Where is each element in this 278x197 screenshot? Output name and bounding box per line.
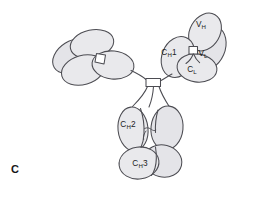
domain-ch2-left-shape <box>116 106 150 153</box>
fc-stem-right-line <box>159 87 170 108</box>
panel-letter-label: C <box>11 163 19 175</box>
left-arm-interchain-bond <box>95 54 106 65</box>
hinge-disulfide-bond <box>146 79 161 87</box>
domain-ch2-right-shape <box>149 104 185 151</box>
hinge-connector-left <box>131 71 146 80</box>
right-arm-vh-vl-bond <box>189 47 198 55</box>
left-fab-arm <box>46 26 135 90</box>
antibody-figure: VH VL CH1 CL CH2 CH3 C <box>0 0 278 197</box>
hinge-region <box>131 71 172 108</box>
fc-stem-center-line <box>149 87 154 108</box>
hinge-connector-right <box>161 74 172 81</box>
fc-stem-left-line <box>133 87 148 107</box>
antibody-diagram-svg: VH VL CH1 CL CH2 CH3 <box>0 0 278 197</box>
fc-region <box>116 104 186 181</box>
